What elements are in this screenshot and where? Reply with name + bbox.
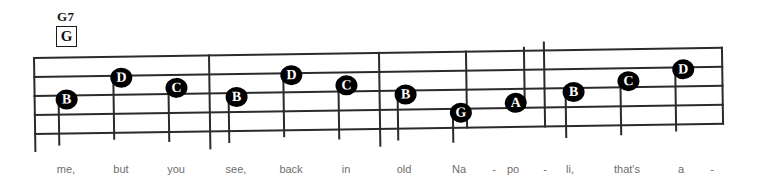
- note-stem: [112, 78, 114, 140]
- lyric-hyphen: -: [710, 163, 714, 175]
- lyric-syllable: but: [113, 163, 128, 175]
- lyric-syllable: a: [678, 163, 684, 175]
- barline: [378, 52, 381, 147]
- notehead-d: D: [280, 65, 302, 85]
- lyric-syllable: see,: [226, 163, 247, 175]
- note-stem: [282, 75, 284, 137]
- note-stem: [674, 69, 676, 131]
- staff-system: BDCBDCBGABCD: [33, 47, 724, 152]
- notehead-c: C: [165, 78, 187, 98]
- lyric-syllable: that's: [614, 163, 640, 175]
- lyric-syllable: you: [167, 163, 185, 175]
- lyric-syllable: old: [397, 163, 412, 175]
- notehead-b: B: [394, 84, 416, 104]
- notehead-b: B: [562, 82, 584, 102]
- chord-diagram-box: G: [56, 26, 77, 47]
- lyric-hyphen: -: [492, 163, 496, 175]
- notehead-g: G: [450, 102, 472, 122]
- notehead-a: A: [505, 93, 527, 113]
- sheet-music-system: G7 G BDCBDCBGABCD me,butyousee,backinold…: [0, 0, 758, 195]
- notehead-d: D: [110, 68, 132, 88]
- lyric-syllable: Na: [452, 163, 466, 175]
- barline: [208, 54, 211, 149]
- notehead-c: C: [335, 75, 357, 95]
- lyric-syllable: li,: [566, 163, 574, 175]
- notehead-b: B: [55, 89, 77, 109]
- barline: [33, 57, 36, 152]
- lyric-syllable: back: [279, 163, 302, 175]
- lyric-syllable: in: [342, 163, 351, 175]
- lyric-syllable: po: [507, 163, 519, 175]
- notehead-b: B: [225, 87, 247, 107]
- notehead-c: C: [617, 71, 639, 91]
- lyric-syllable: me,: [57, 163, 75, 175]
- lyric-hyphen: -: [543, 163, 547, 175]
- chord-symbol: G7: [57, 9, 74, 25]
- barline: [543, 41, 546, 127]
- note-stem: [523, 47, 525, 103]
- notehead-d: D: [672, 59, 694, 79]
